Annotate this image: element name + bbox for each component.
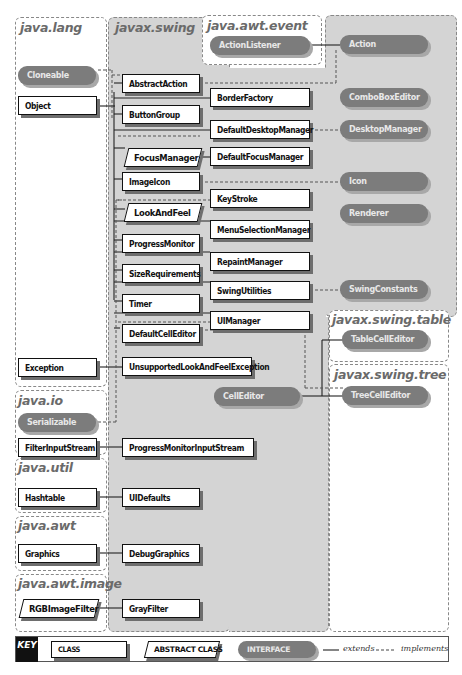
class-object[interactable]: Object (18, 96, 97, 115)
abstract-label: ABSTRACT CLASS (154, 641, 223, 658)
interface-icon[interactable]: Icon (340, 172, 428, 191)
class-uidefaults[interactable]: UIDefaults (122, 488, 200, 507)
legend: KEY CLASS ABSTRACT CLASS INTERFACE exten… (15, 636, 449, 662)
legend-title: KEY (16, 637, 38, 662)
class-progressmonitorinputstream[interactable]: ProgressMonitorInputStream (122, 438, 254, 457)
class-exception[interactable]: Exception (18, 358, 97, 377)
legend-extends-line (321, 637, 341, 663)
class-borderfactory[interactable]: BorderFactory (210, 88, 310, 107)
class-graphics[interactable]: Graphics (18, 544, 97, 563)
legend-interface: INTERFACE (238, 641, 316, 658)
abstract-class-lookandfeel[interactable]: LookAndFeel (126, 203, 200, 222)
interface-action[interactable]: Action (340, 35, 428, 54)
class-imageicon[interactable]: ImageIcon (122, 172, 200, 191)
legend-abstract-class: ABSTRACT CLASS (146, 641, 218, 658)
class-uimanager[interactable]: UIManager (210, 311, 310, 330)
class-menuselectionmanager[interactable]: MenuSelectionManager (210, 220, 310, 239)
interface-actionlistener[interactable]: ActionListener (210, 36, 310, 55)
class-defaultdesktopmanager[interactable]: DefaultDesktopManager (210, 120, 310, 139)
class-keystroke[interactable]: KeyStroke (210, 189, 310, 208)
interface-tablecelleditor[interactable]: TableCellEditor (342, 330, 428, 349)
class-progressmonitor[interactable]: ProgressMonitor (122, 234, 200, 253)
legend-implements-label: implements (401, 644, 448, 653)
class-hashtable[interactable]: Hashtable (18, 488, 97, 507)
class-timer[interactable]: Timer (122, 294, 200, 313)
interface-serializable[interactable]: Serializable (18, 413, 96, 432)
class-unsupportedlookandfeelexception[interactable]: UnsupportedLookAndFeelException (122, 357, 252, 376)
class-repaintmanager[interactable]: RepaintManager (210, 252, 310, 271)
class-filterinputstream[interactable]: FilterInputStream (18, 438, 97, 457)
abstract-label: FocusManager (134, 148, 198, 167)
abstract-label: RGBImageFilter (29, 599, 98, 618)
class-sizerequirements[interactable]: SizeRequirements (122, 264, 200, 283)
interface-renderer[interactable]: Renderer (340, 204, 428, 223)
class-debuggraphics[interactable]: DebugGraphics (122, 544, 200, 563)
legend-extends-label: extends (343, 644, 375, 653)
interface-celleditor[interactable]: CellEditor (214, 387, 300, 406)
interface-cloneable[interactable]: Cloneable (18, 66, 96, 85)
interface-treecelleditor[interactable]: TreeCellEditor (342, 386, 428, 405)
interface-desktopmanager[interactable]: DesktopManager (340, 120, 428, 139)
class-abstractaction[interactable]: AbstractAction (122, 74, 200, 93)
abstract-label: LookAndFeel (134, 203, 191, 222)
legend-class: CLASS (51, 641, 127, 658)
abstract-class-rgbimagefilter[interactable]: RGBImageFilter (21, 599, 97, 618)
class-buttongroup[interactable]: ButtonGroup (122, 105, 200, 124)
abstract-class-focusmanager[interactable]: FocusManager (126, 148, 200, 167)
interface-comboboxeditor[interactable]: ComboBoxEditor (340, 88, 428, 107)
class-swingutilities[interactable]: SwingUtilities (210, 281, 310, 300)
class-defaultfocusmanager[interactable]: DefaultFocusManager (210, 147, 310, 166)
legend-implements-line (374, 637, 398, 663)
class-defaultcelleditor[interactable]: DefaultCellEditor (122, 324, 200, 343)
interface-swingconstants[interactable]: SwingConstants (340, 280, 428, 299)
class-grayfilter[interactable]: GrayFilter (122, 599, 200, 618)
